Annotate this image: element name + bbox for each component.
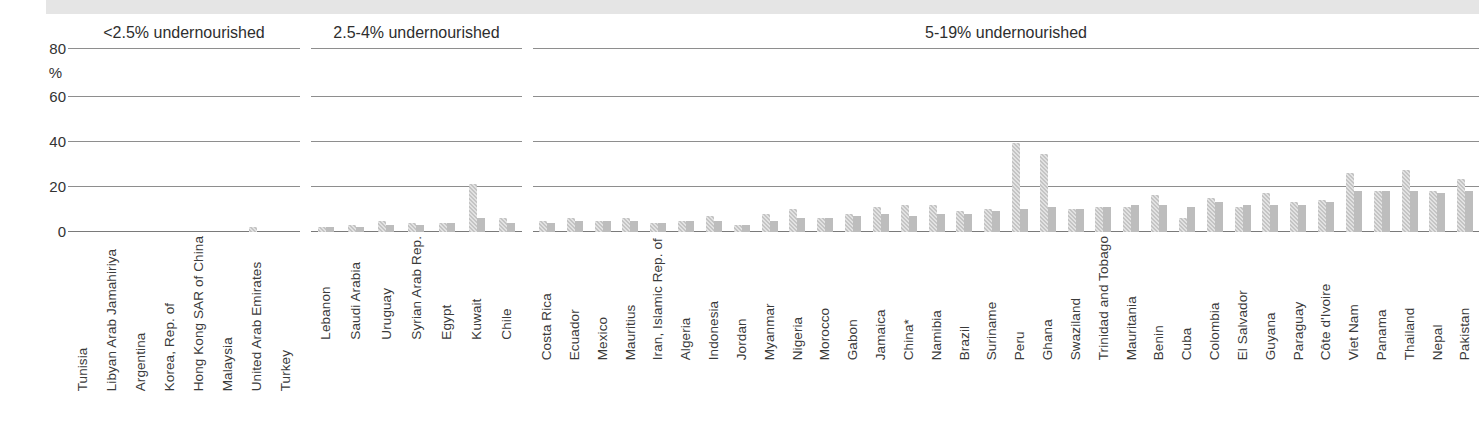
category-label-text: Swaziland bbox=[1069, 236, 1083, 360]
category-labels: Costa RicaEcuadorMexicoMauritiusIran, Is… bbox=[533, 236, 1479, 360]
bar-series-2 bbox=[825, 218, 833, 232]
category-label: Turkey bbox=[271, 236, 300, 391]
bar-group bbox=[1424, 1, 1452, 232]
category-label: Ghana bbox=[1034, 236, 1062, 360]
category-labels: TunisiaLibyan Arab JamahiriyaArgentinaKo… bbox=[68, 236, 300, 391]
category-label: Libyan Arab Jamahiriya bbox=[97, 236, 126, 391]
bar-series-2 bbox=[686, 221, 694, 232]
bar-group bbox=[839, 1, 867, 232]
bar-group bbox=[492, 1, 522, 232]
category-label-text: Viet Nam bbox=[1347, 236, 1361, 360]
bar-series-1 bbox=[1040, 154, 1048, 232]
bar-group bbox=[401, 1, 431, 232]
category-label: Uruguay bbox=[371, 236, 401, 340]
bar-series-2 bbox=[1103, 207, 1111, 232]
bar-series-1 bbox=[845, 214, 853, 232]
category-label: Mexico bbox=[589, 236, 617, 360]
category-label-text: Nigeria bbox=[791, 236, 805, 360]
category-label: Morocco bbox=[811, 236, 839, 360]
category-label: Swaziland bbox=[1062, 236, 1090, 360]
bar-group bbox=[783, 1, 811, 232]
bar-group bbox=[213, 1, 242, 232]
category-label-text: Lebanon bbox=[319, 236, 333, 340]
bar-series-1 bbox=[318, 227, 326, 232]
bar-group bbox=[97, 1, 126, 232]
category-label-text: El Salvador bbox=[1236, 236, 1250, 360]
bar-series-1 bbox=[789, 209, 797, 232]
category-label: China* bbox=[895, 236, 923, 360]
bar-series-2 bbox=[1298, 205, 1306, 232]
bar-series-2 bbox=[909, 216, 917, 232]
bar-series-1 bbox=[1374, 191, 1382, 232]
category-label: Korea, Rep. of bbox=[155, 236, 184, 391]
bar-group bbox=[184, 1, 213, 232]
bar-series-1 bbox=[650, 223, 658, 232]
bar-series-1 bbox=[1151, 195, 1159, 232]
category-label-text: Algeria bbox=[679, 236, 693, 360]
category-label: Kuwait bbox=[462, 236, 492, 340]
category-label-text: Hong Kong SAR of China bbox=[192, 236, 206, 391]
category-label-text: Indonesia bbox=[707, 236, 721, 360]
category-label: United Arab Emirates bbox=[242, 236, 271, 391]
bar-series-1 bbox=[499, 218, 507, 232]
category-label-text: Saudi Arabia bbox=[349, 236, 363, 340]
bar-series-2 bbox=[1382, 191, 1390, 232]
bar-series-1 bbox=[901, 205, 909, 232]
category-label-text: Guyana bbox=[1264, 236, 1278, 360]
category-label-text: Mauritius bbox=[624, 236, 638, 360]
bar-series-1 bbox=[984, 209, 992, 232]
category-label-text: Syrian Arab Rep. bbox=[410, 236, 424, 340]
bar-series-1 bbox=[929, 205, 937, 232]
category-label-text: Panama bbox=[1375, 236, 1389, 360]
category-label-text: Mexico bbox=[596, 236, 610, 360]
bar-series-1 bbox=[1012, 143, 1020, 232]
bar-group bbox=[895, 1, 923, 232]
bar-series-2 bbox=[547, 223, 555, 232]
category-label-text: Pakistan bbox=[1458, 236, 1472, 360]
bar-group bbox=[1117, 1, 1145, 232]
category-label: Hong Kong SAR of China bbox=[184, 236, 213, 391]
bar-series-2 bbox=[326, 227, 334, 232]
bar-series-2 bbox=[1215, 202, 1223, 232]
category-label-text: Mauritania bbox=[1125, 236, 1139, 360]
y-tick-40: 40 bbox=[49, 134, 66, 149]
bar-series-2 bbox=[742, 225, 750, 232]
bar-series-2 bbox=[658, 223, 666, 232]
category-label-text: Ghana bbox=[1041, 236, 1055, 360]
bar-group bbox=[589, 1, 617, 232]
bar-series-2 bbox=[797, 218, 805, 232]
category-label-text: Malaysia bbox=[221, 236, 235, 391]
category-label-text: China* bbox=[902, 236, 916, 360]
category-label: Saudi Arabia bbox=[341, 236, 371, 340]
category-label: Syrian Arab Rep. bbox=[401, 236, 431, 340]
category-label-text: Argentina bbox=[134, 236, 148, 391]
panel-group-5-to-19: 5-19% undernourished Costa RicaEcuadorMe… bbox=[533, 0, 1479, 435]
bar-series-1 bbox=[622, 218, 630, 232]
bar-series-2 bbox=[853, 216, 861, 232]
bar-series-1 bbox=[762, 214, 770, 232]
bar-group bbox=[371, 1, 401, 232]
bar-group bbox=[923, 1, 951, 232]
bar-series-1 bbox=[1095, 207, 1103, 232]
bar-group bbox=[1145, 1, 1173, 232]
category-label: Cuba bbox=[1173, 236, 1201, 360]
category-label-text: Namibia bbox=[930, 236, 944, 360]
category-label: Tunisia bbox=[68, 236, 97, 391]
bar-series-1 bbox=[1262, 193, 1270, 232]
category-label-text: Korea, Rep. of bbox=[163, 236, 177, 391]
bar-group bbox=[126, 1, 155, 232]
bar-group bbox=[561, 1, 589, 232]
category-label: Jamaica bbox=[867, 236, 895, 360]
category-label-text: United Arab Emirates bbox=[250, 236, 264, 391]
bar-series-2 bbox=[992, 211, 1000, 232]
plot-area bbox=[68, 0, 300, 232]
category-label-text: Suriname bbox=[985, 236, 999, 360]
bar-series-2 bbox=[603, 221, 611, 232]
bar-series-2 bbox=[575, 221, 583, 232]
bar-group bbox=[756, 1, 784, 232]
category-label: Jordan bbox=[728, 236, 756, 360]
bar-series-2 bbox=[1159, 205, 1167, 232]
category-label: Myanmar bbox=[756, 236, 784, 360]
undernourishment-bar-chart: 80 % 60 40 20 0 <2.5% undernourished Tun… bbox=[0, 0, 1479, 435]
category-label: Ecuador bbox=[561, 236, 589, 360]
